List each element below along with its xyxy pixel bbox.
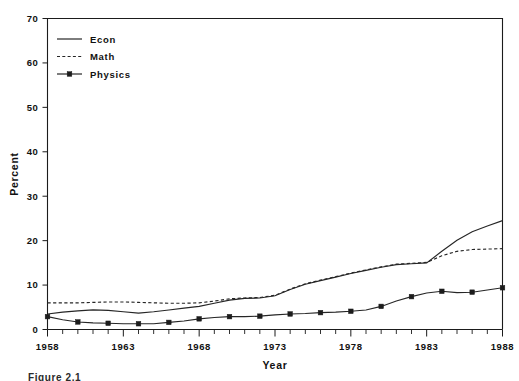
- chart-legend[interactable]: EconMathPhysics: [57, 34, 131, 80]
- series-marker-physics: [197, 317, 202, 322]
- x-tick-label: 1968: [187, 341, 211, 352]
- series-marker-physics: [106, 321, 111, 326]
- plot-frame: [48, 19, 503, 330]
- series-marker-physics: [136, 321, 141, 326]
- x-axis-title: Year: [263, 359, 288, 371]
- y-tick-label: 30: [27, 191, 39, 202]
- legend-label-physics: Physics: [90, 69, 131, 80]
- series-marker-physics: [45, 314, 50, 319]
- series-marker-physics: [440, 289, 445, 294]
- y-tick-label: 0: [33, 324, 39, 335]
- series-marker-physics: [500, 285, 505, 290]
- legend-marker-physics: [67, 72, 72, 77]
- series-marker-physics: [258, 314, 263, 319]
- chart-tick-labels: 0102030405060701958196319681973197819831…: [27, 13, 515, 352]
- y-tick-label: 10: [27, 279, 39, 290]
- y-tick-label: 40: [27, 146, 39, 157]
- y-tick-label: 50: [27, 102, 39, 113]
- x-tick-label: 1988: [491, 341, 515, 352]
- legend-label-math: Math: [90, 51, 115, 62]
- figure-caption: Figure 2.1: [28, 372, 81, 381]
- series-marker-physics: [288, 312, 293, 317]
- chart-axes: [48, 19, 503, 330]
- series-marker-physics: [409, 294, 414, 299]
- y-tick-label: 70: [27, 13, 39, 24]
- series-marker-physics: [349, 309, 354, 314]
- series-marker-physics: [76, 320, 81, 325]
- y-tick-label: 60: [27, 57, 39, 68]
- y-axis-title: Percent: [8, 152, 20, 195]
- series-marker-physics: [227, 314, 232, 319]
- series-line-physics[interactable]: [48, 288, 503, 324]
- chart-ticks: [43, 19, 503, 337]
- x-tick-label: 1983: [415, 341, 439, 352]
- series-line-econ[interactable]: [48, 221, 503, 314]
- x-tick-label: 1963: [112, 341, 136, 352]
- series-marker-physics: [167, 320, 172, 325]
- x-tick-label: 1973: [263, 341, 287, 352]
- legend-label-econ: Econ: [90, 34, 116, 45]
- series-marker-physics: [318, 310, 323, 315]
- chart-axis-titles: YearPercent: [8, 152, 288, 370]
- y-tick-label: 20: [27, 235, 39, 246]
- x-tick-label: 1958: [36, 341, 60, 352]
- x-tick-label: 1978: [339, 341, 363, 352]
- chart-series[interactable]: [45, 221, 505, 326]
- series-marker-physics: [470, 290, 475, 295]
- series-marker-physics: [379, 304, 384, 309]
